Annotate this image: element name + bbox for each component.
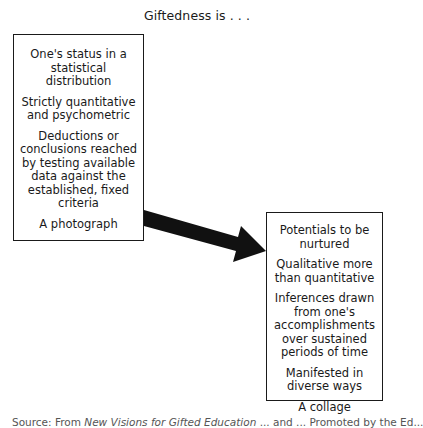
emerging-view-box: Potentials to be nurtured Qualitative mo… [266,212,383,401]
right-item-qualitative: Qualitative more than quantitative [270,258,379,285]
right-item-inferences: Inferences drawn from one's accomplishme… [270,292,379,360]
left-item-photograph: A photograph [18,218,139,232]
right-item-potentials: Potentials to be nurtured [270,224,379,251]
source-caption: Source: From New Visions for Gifted Educ… [12,416,402,428]
caption-prefix: Source: From [12,416,84,428]
caption-rest: ... and ... Promoted by the Ed... [256,416,423,428]
right-item-collage: A collage [270,401,379,415]
traditional-view-box: One's status in a statistical distributi… [13,34,144,241]
left-item-deductions: Deductions or conclusions reached by tes… [18,130,139,211]
left-item-quantitative: Strictly quantitative and psychometric [18,96,139,123]
diagram-title: Giftedness is . . . [0,8,394,23]
right-item-diverse-ways: Manifested in diverse ways [270,367,379,394]
caption-book-title: New Visions for Gifted Education [84,416,256,428]
left-item-statistical-status: One's status in a statistical distributi… [18,48,139,89]
